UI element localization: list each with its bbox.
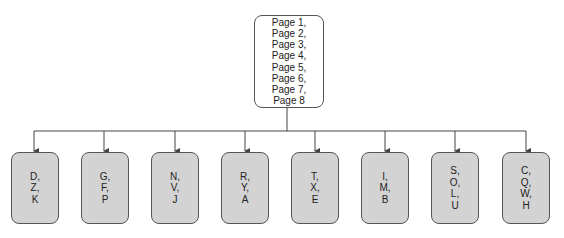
node-line: V, <box>171 182 180 194</box>
child-node-2: G, F, P <box>81 152 129 224</box>
node-line: Q, <box>521 177 532 189</box>
node-line: G, <box>100 171 111 183</box>
node-line: T, <box>311 171 319 183</box>
node-line: E <box>312 194 319 206</box>
node-line: O, <box>450 177 461 189</box>
node-line: S, <box>450 165 459 177</box>
node-line: L, <box>451 188 459 200</box>
node-line: F, <box>101 182 109 194</box>
root-line: Page 5, <box>272 62 306 73</box>
root-line: Page 1, <box>272 17 306 28</box>
root-node: Page 1, Page 2, Page 3, Page 4, Page 5, … <box>254 15 324 108</box>
child-node-3: N, V, J <box>151 152 199 224</box>
node-line: M, <box>379 182 390 194</box>
node-line: P <box>102 194 109 206</box>
node-line: A <box>242 194 249 206</box>
root-line: Page 3, <box>272 39 306 50</box>
node-line: K <box>32 194 39 206</box>
node-line: R, <box>240 171 250 183</box>
node-line: J <box>173 194 178 206</box>
node-line: N, <box>170 171 180 183</box>
child-node-1: D, Z, K <box>11 152 59 224</box>
node-line: Z, <box>31 182 40 194</box>
node-line: Y, <box>241 182 249 194</box>
child-node-4: R, Y, A <box>221 152 269 224</box>
node-line: H <box>522 200 529 212</box>
root-line: Page 6, <box>272 73 306 84</box>
node-line: U <box>451 200 458 212</box>
node-line: W, <box>520 188 532 200</box>
child-node-5: T, X, E <box>291 152 339 224</box>
node-line: C, <box>521 165 531 177</box>
node-line: B <box>382 194 389 206</box>
root-line: Page 4, <box>272 50 306 61</box>
node-line: X, <box>310 182 319 194</box>
node-line: D, <box>30 171 40 183</box>
child-node-6: I, M, B <box>361 152 409 224</box>
child-node-7: S, O, L, U <box>431 152 479 224</box>
root-line: Page 7, <box>272 84 306 95</box>
node-line: I, <box>382 171 388 183</box>
root-line: Page 8 <box>273 95 305 106</box>
child-node-8: C, Q, W, H <box>502 152 550 224</box>
root-line: Page 2, <box>272 28 306 39</box>
